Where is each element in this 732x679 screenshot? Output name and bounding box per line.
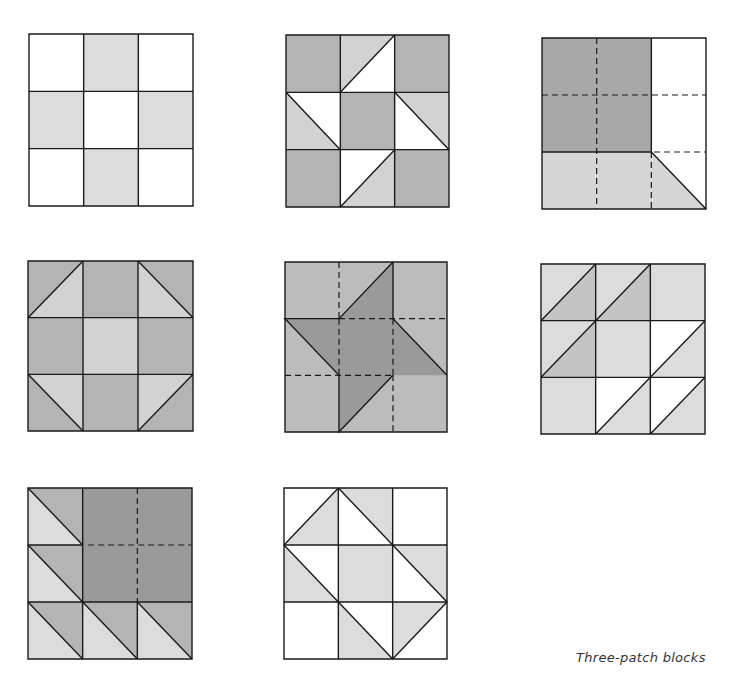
shoofly-diagram — [28, 261, 193, 431]
quilt-block-square-in-square — [284, 488, 447, 659]
quilt-block-shoofly — [28, 261, 193, 431]
quilt-block-pinwheel-star — [285, 262, 447, 432]
quilt-block-friendship-star — [286, 35, 449, 207]
bear-paw-diagram — [28, 488, 192, 659]
friendship-star-diagram — [286, 35, 449, 207]
quilt-block-nine-patch — [29, 34, 193, 206]
nine-patch-diagram — [29, 34, 193, 206]
square-in-square-diagram — [284, 488, 447, 659]
large-square-diagram — [542, 38, 706, 209]
half-square-triangles-diagram — [541, 264, 705, 434]
quilt-block-half-square-triangles — [541, 264, 705, 434]
quilt-block-bear-paw — [28, 488, 192, 659]
pinwheel-star-diagram — [285, 262, 447, 432]
figure-caption: Three-patch blocks — [576, 650, 706, 665]
quilt-block-large-square — [542, 38, 706, 209]
